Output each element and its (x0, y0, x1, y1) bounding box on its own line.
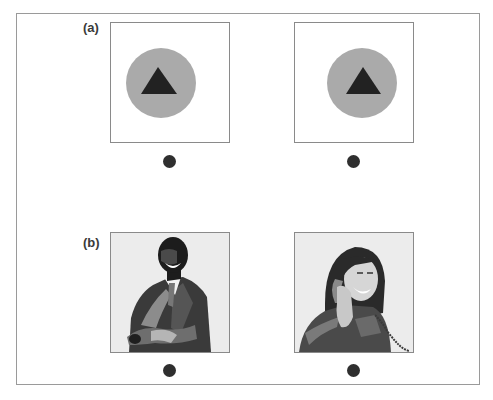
panel-b-right-stimulus (294, 232, 414, 353)
fixation-dot (163, 155, 176, 168)
fixation-dot (347, 364, 360, 377)
panel-b-label: (b) (83, 235, 100, 250)
panel-a-left-stimulus (110, 22, 230, 143)
woman-on-phone-illustration (295, 233, 413, 352)
fixation-dot (347, 155, 360, 168)
panel-b-left-stimulus (110, 232, 230, 353)
panel-a-right-stimulus (294, 22, 414, 143)
panel-a-label: (a) (83, 20, 99, 35)
man-illustration (111, 233, 229, 352)
fixation-dot (163, 364, 176, 377)
